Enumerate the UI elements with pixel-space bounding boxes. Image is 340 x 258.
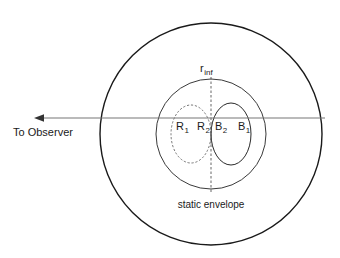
caption-static-envelope: static envelope <box>178 199 245 210</box>
label-region-b2: B2 <box>215 120 228 135</box>
label-region-r2: R2 <box>197 120 210 135</box>
arrowhead-icon <box>34 114 44 122</box>
label-region-r1: R1 <box>176 120 189 135</box>
figure-canvas: rinf R1 R2 B2 B1 static envelope To Obse… <box>0 0 340 258</box>
label-r-inf: rinf <box>200 62 213 77</box>
binary-star-static-envelope-diagram: rinf R1 R2 B2 B1 static envelope To Obse… <box>0 0 340 258</box>
caption-to-observer: To Observer <box>13 126 73 138</box>
label-region-b1: B1 <box>238 120 251 135</box>
